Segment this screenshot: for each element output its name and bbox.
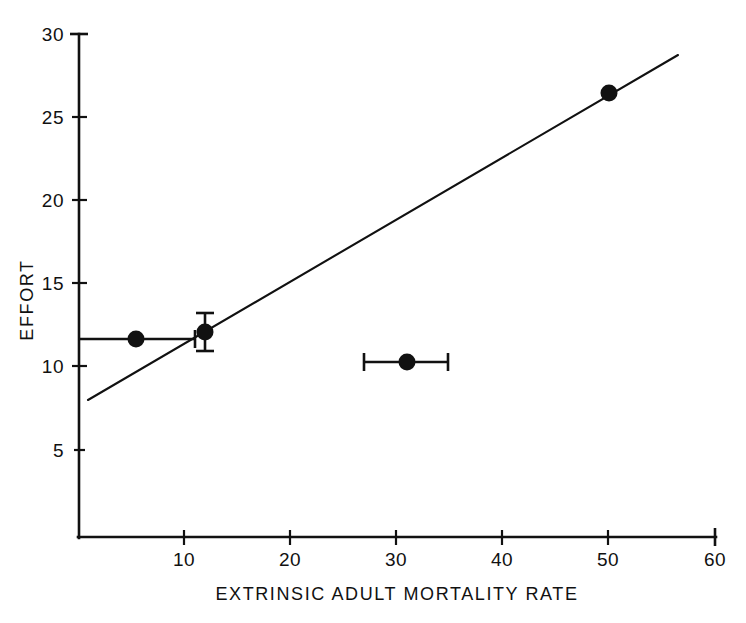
x-tick-label-30: 30 <box>385 549 407 570</box>
axes-group <box>70 34 716 546</box>
data-marker-1 <box>128 331 145 348</box>
y-axis-tick-labels: 30 25 20 15 10 5 <box>42 24 64 461</box>
y-axis-title: EFFORT <box>17 259 37 340</box>
y-tick-label-25: 25 <box>42 107 64 128</box>
y-tick-label-15: 15 <box>42 273 64 294</box>
x-tick-label-40: 40 <box>491 549 513 570</box>
y-tick-label-5: 5 <box>53 440 64 461</box>
data-series <box>78 85 618 372</box>
y-tick-label-20: 20 <box>42 190 64 211</box>
y-tick-label-10: 10 <box>42 356 64 377</box>
chart-figure: 30 25 20 15 10 5 10 20 30 40 50 60 EXTRI… <box>0 0 746 623</box>
data-point-3 <box>364 353 448 371</box>
x-tick-label-60: 60 <box>704 549 726 570</box>
x-tick-label-50: 50 <box>597 549 619 570</box>
x-axis-title: EXTRINSIC ADULT MORTALITY RATE <box>215 584 578 604</box>
x-tick-label-10: 10 <box>173 549 195 570</box>
scatter-plot-canvas: 30 25 20 15 10 5 10 20 30 40 50 60 EXTRI… <box>0 0 746 623</box>
x-axis-tick-labels: 10 20 30 40 50 60 <box>173 549 726 570</box>
data-point-4 <box>601 85 618 102</box>
data-marker-2 <box>197 324 214 341</box>
data-point-2 <box>196 313 214 351</box>
data-marker-4 <box>601 85 618 102</box>
y-tick-label-30: 30 <box>42 24 64 45</box>
regression-line <box>88 55 678 400</box>
x-tick-label-20: 20 <box>279 549 301 570</box>
data-point-1 <box>78 330 195 348</box>
data-marker-3 <box>399 354 416 371</box>
